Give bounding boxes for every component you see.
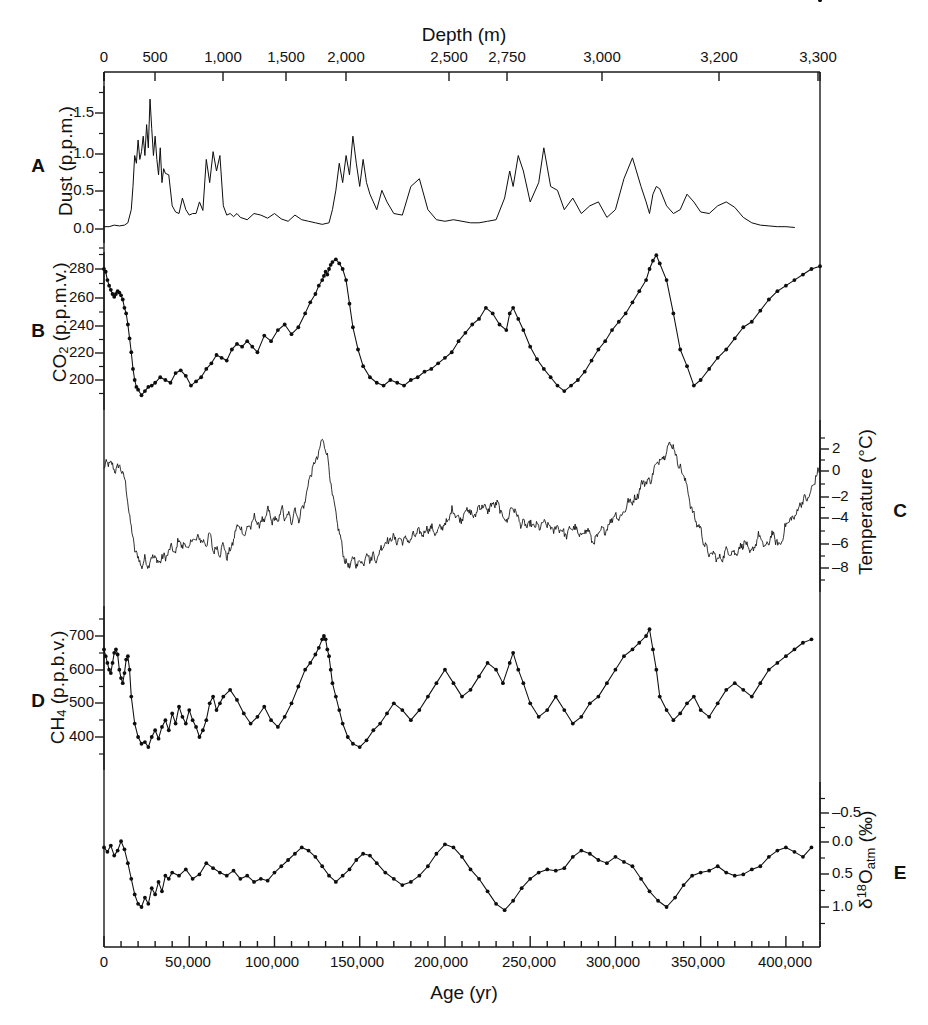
depth-tick-label: 2,750 <box>467 48 547 65</box>
age-tick-label: 400,000 <box>735 953 835 970</box>
top-axis-title: Depth (m) <box>0 24 928 46</box>
age-tick-label: 200,000 <box>391 953 491 970</box>
depth-tick-label: 2,000 <box>306 48 386 65</box>
panel-letter-b: B <box>26 320 50 342</box>
bottom-axis-title: Age (yr) <box>0 982 928 1004</box>
depth-tick-label: 3,000 <box>562 48 642 65</box>
ylabel-temperature: Temperature (°C) <box>855 392 877 612</box>
depth-tick-label: 3,200 <box>679 48 759 65</box>
panel-letter-a: A <box>26 155 50 177</box>
age-tick-label: 350,000 <box>648 953 748 970</box>
panel-letter-c: C <box>888 500 912 522</box>
vostok-ice-core-figure: Depth (m) Age (yr) 05001,0001,5002,0002,… <box>0 0 928 1025</box>
depth-tick-label: 3,300 <box>778 48 858 65</box>
panel-letter-e: E <box>888 862 912 884</box>
ylabel-co2: CO2 (p.p.m.v.) <box>49 212 72 432</box>
ylabel-d18o: δ18Oatm (‰) <box>854 750 878 970</box>
ylabel-ch4: CH4 (p.p.b.v.) <box>47 577 70 797</box>
figure-canvas <box>0 0 928 1025</box>
